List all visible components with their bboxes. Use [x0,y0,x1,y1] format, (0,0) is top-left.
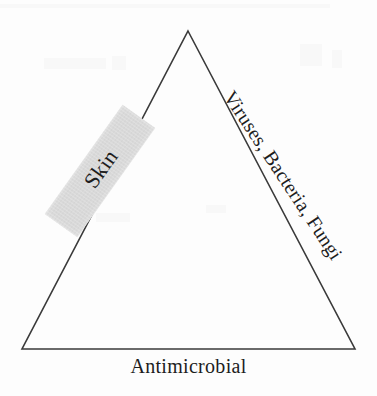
triangle-diagram-figure: Skin Viruses, Bacteria, Fungi Antimicrob… [0,0,377,396]
edge-label-antimicrobial: Antimicrobial [0,355,377,378]
